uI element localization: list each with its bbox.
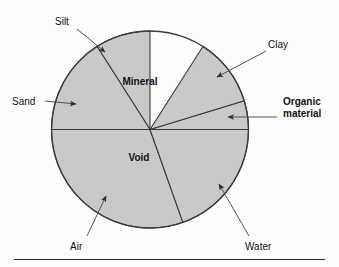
callout-label-sand: Sand: [12, 96, 35, 108]
slice-label-void: Void: [129, 152, 150, 164]
callout-label-air: Air: [70, 241, 82, 253]
pie-slice-group: [52, 31, 249, 228]
slice-label-mineral: Mineral: [122, 76, 157, 88]
callout-label-organic-material: Organic material: [283, 96, 321, 120]
leader-line-water: [219, 184, 249, 236]
callout-label-water: Water: [245, 241, 271, 253]
leader-line-silt: [77, 29, 105, 52]
pie-diagram-svg: [0, 0, 339, 267]
figure-container: MineralVoid SiltSandAirWaterOrganic mate…: [0, 0, 339, 267]
callout-label-silt: Silt: [55, 16, 69, 28]
footer-divider: [14, 259, 325, 260]
callout-label-clay: Clay: [268, 39, 288, 51]
